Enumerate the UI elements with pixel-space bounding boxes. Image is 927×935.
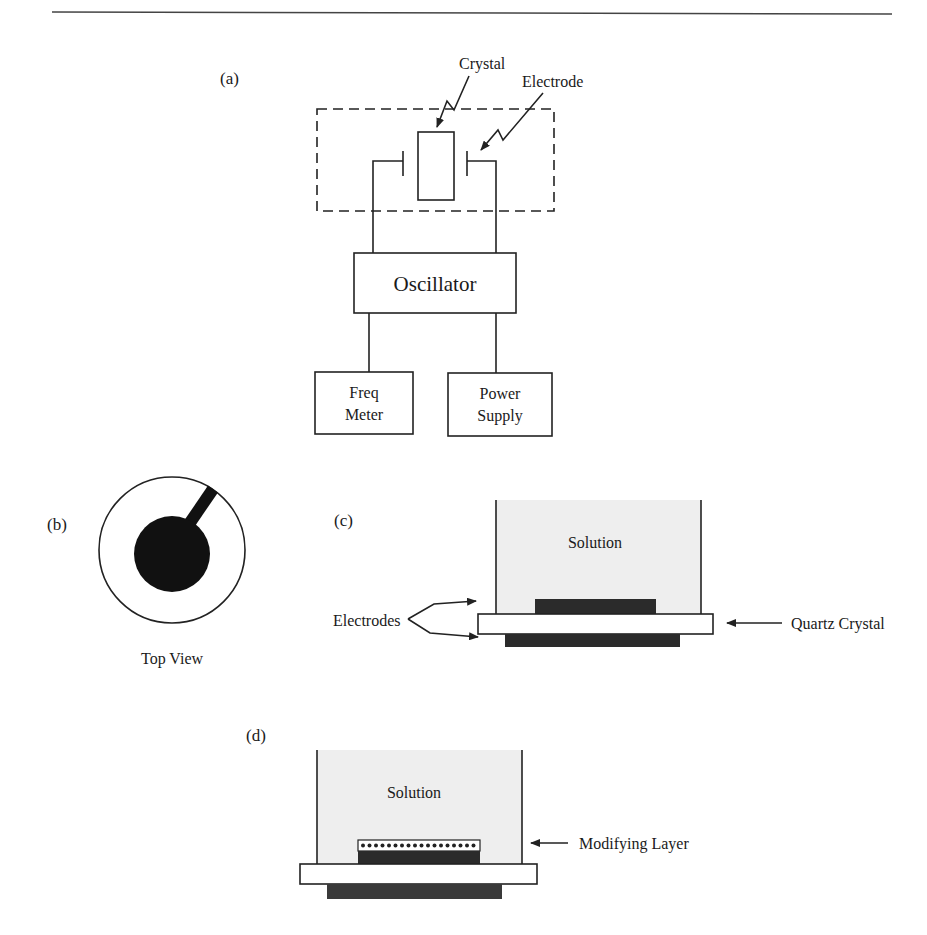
- electrode-pointer-arrow: [481, 93, 543, 150]
- freq-meter-label-line1: Freq: [349, 384, 378, 402]
- freq-meter-label-line2: Meter: [345, 406, 384, 423]
- electrodes-arrow-top: [408, 601, 476, 619]
- bottom-electrode: [327, 884, 502, 899]
- quartz-crystal-label: Quartz Crystal: [791, 615, 885, 633]
- panel-a-label: (a): [220, 69, 239, 88]
- top-electrode: [535, 599, 656, 614]
- solution-label: Solution: [387, 784, 441, 801]
- electrode-label: Electrode: [522, 73, 583, 90]
- bottom-electrode: [505, 634, 680, 647]
- panel-d-label: (d): [246, 726, 266, 745]
- solution-label: Solution: [568, 534, 622, 551]
- crystal-label: Crystal: [459, 55, 506, 73]
- crystal-pointer-arrow: [437, 76, 469, 127]
- panel-b: (b) Top View: [47, 477, 245, 668]
- modifying-layer-label: Modifying Layer: [579, 835, 689, 853]
- power-supply-box: [448, 373, 552, 436]
- top-electrode: [358, 851, 480, 864]
- top-rule: [52, 12, 892, 14]
- oscillator-label: Oscillator: [394, 272, 477, 296]
- panel-c-label: (c): [334, 511, 353, 530]
- electrodes-arrow-bottom: [408, 619, 478, 637]
- quartz-crystal-plate: [300, 864, 537, 884]
- quartz-crystal-plate: [478, 614, 713, 634]
- crystal-rect: [418, 132, 454, 200]
- panel-d: (d) Solution Modifying Layer: [246, 726, 689, 899]
- solution-region: [496, 500, 701, 614]
- electrodes-label: Electrodes: [333, 612, 401, 629]
- power-supply-label-line1: Power: [480, 385, 522, 402]
- top-view-caption: Top View: [141, 650, 204, 668]
- right-wire: [467, 161, 496, 253]
- panel-c: (c) Solution Electrodes Quartz Crystal: [333, 500, 885, 647]
- panel-a: (a) Crystal Electrode Oscillator Freq Me…: [220, 55, 583, 436]
- freq-meter-box: [315, 372, 413, 434]
- left-wire: [373, 161, 403, 253]
- panel-b-label: (b): [47, 515, 67, 534]
- power-supply-label-line2: Supply: [477, 407, 522, 425]
- qcm-diagram: (a) Crystal Electrode Oscillator Freq Me…: [0, 0, 927, 935]
- electrode-disc: [134, 516, 210, 592]
